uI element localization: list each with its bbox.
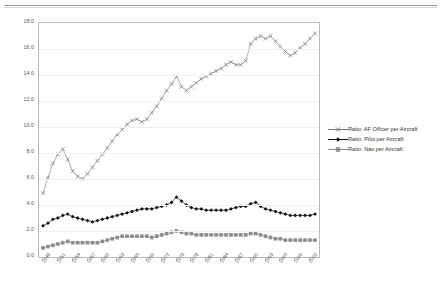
data-point-marker — [269, 208, 273, 212]
data-point-marker — [51, 244, 55, 248]
data-point-marker — [100, 217, 104, 221]
data-point-marker — [199, 77, 203, 81]
data-point-marker — [264, 37, 268, 41]
data-point-marker — [120, 128, 124, 132]
data-point-marker — [115, 214, 119, 218]
chart-page: 0.02.04.06.08.010.012.014.016.018.0 1948… — [0, 0, 441, 293]
data-point-marker — [51, 162, 55, 166]
data-point-marker — [254, 37, 258, 41]
data-point-marker — [160, 97, 164, 101]
data-point-marker — [61, 241, 65, 245]
legend-item[interactable]: Ratio: AF Officer per Aircraft — [328, 125, 436, 134]
data-point-marker — [283, 50, 287, 54]
data-point-marker — [170, 82, 174, 86]
data-point-marker — [66, 158, 70, 162]
data-point-marker — [61, 214, 65, 218]
data-point-marker — [135, 117, 139, 121]
data-point-marker — [185, 232, 189, 236]
legend-label: Ratio: AF Officer per Aircraft — [348, 127, 418, 133]
data-point-marker — [274, 39, 278, 43]
data-point-marker — [91, 220, 95, 224]
grid-line — [39, 179, 319, 180]
data-point-marker — [56, 242, 60, 246]
data-point-marker — [214, 233, 218, 237]
data-point-marker — [105, 216, 109, 220]
data-point-marker — [71, 169, 75, 173]
data-point-marker — [214, 69, 218, 73]
data-point-marker — [130, 210, 134, 214]
data-point-marker — [283, 212, 287, 216]
data-point-marker — [189, 85, 193, 89]
data-point-marker — [209, 208, 213, 212]
data-point-marker — [224, 233, 228, 237]
data-point-marker — [125, 123, 129, 127]
data-point-marker — [150, 236, 154, 240]
data-point-marker — [120, 234, 124, 238]
y-axis-tick-label: 4.0 — [27, 201, 35, 206]
data-point-marker — [140, 234, 144, 238]
data-point-marker — [219, 208, 223, 212]
data-point-marker — [105, 238, 109, 242]
data-point-marker — [76, 175, 80, 179]
data-point-marker — [308, 214, 312, 218]
data-point-marker — [76, 241, 80, 245]
data-point-marker — [165, 89, 169, 93]
y-axis-tick-label: 18.0 — [24, 19, 35, 24]
data-point-marker — [86, 219, 90, 223]
data-point-marker — [71, 241, 75, 245]
data-point-marker — [254, 232, 258, 236]
data-point-marker — [180, 85, 184, 89]
data-point-marker — [91, 165, 95, 169]
data-point-marker — [303, 238, 307, 242]
data-point-marker — [41, 224, 45, 228]
data-point-marker — [41, 191, 45, 195]
chart-svg — [39, 23, 319, 257]
data-point-marker — [195, 233, 199, 237]
data-point-marker — [185, 89, 189, 93]
data-point-marker — [219, 67, 223, 71]
x-axis: 1948195119541957196019631966196919721975… — [38, 258, 320, 293]
plot-area — [38, 22, 320, 258]
legend-label: Ratio: Nav per Aircraft — [348, 147, 403, 153]
data-point-marker — [160, 233, 164, 237]
grid-line — [39, 127, 319, 128]
data-point-marker — [209, 233, 213, 237]
data-point-marker — [313, 238, 317, 242]
data-point-marker — [125, 234, 129, 238]
data-point-marker — [76, 216, 80, 220]
data-point-marker — [150, 111, 154, 115]
data-point-marker — [96, 241, 100, 245]
data-point-marker — [130, 234, 134, 238]
data-point-marker — [86, 172, 90, 176]
legend-item[interactable]: Ratio: Pilot per Aircraft — [328, 135, 436, 144]
data-point-marker — [278, 45, 282, 49]
data-point-marker — [259, 34, 263, 38]
header-divider-bottom — [4, 7, 437, 8]
data-point-marker — [264, 234, 268, 238]
data-point-marker — [308, 37, 312, 41]
data-point-marker — [298, 214, 302, 218]
data-point-marker — [249, 232, 253, 236]
data-point-marker — [313, 212, 317, 216]
legend-marker-cross-icon — [328, 125, 348, 134]
header-divider-top — [4, 5, 437, 6]
data-point-marker — [165, 232, 169, 236]
data-point-marker — [96, 159, 100, 163]
data-point-marker — [81, 217, 85, 221]
legend-item[interactable]: Ratio: Nav per Aircraft — [328, 145, 436, 154]
data-point-marker — [194, 207, 198, 211]
y-axis-tick-label: 6.0 — [27, 175, 35, 180]
y-axis: 0.02.04.06.08.010.012.014.016.018.0 — [0, 0, 36, 293]
grid-line — [39, 205, 319, 206]
data-point-marker — [155, 104, 159, 108]
data-point-marker — [308, 238, 312, 242]
data-point-marker — [229, 207, 233, 211]
data-point-marker — [278, 211, 282, 215]
y-axis-tick-label: 14.0 — [24, 71, 35, 76]
data-point-marker — [234, 233, 238, 237]
y-axis-tick-label: 12.0 — [24, 97, 35, 102]
data-point-marker — [274, 210, 278, 214]
data-point-marker — [96, 219, 100, 223]
legend-label: Ratio: Pilot per Aircraft — [348, 137, 404, 143]
data-point-marker — [279, 237, 283, 241]
